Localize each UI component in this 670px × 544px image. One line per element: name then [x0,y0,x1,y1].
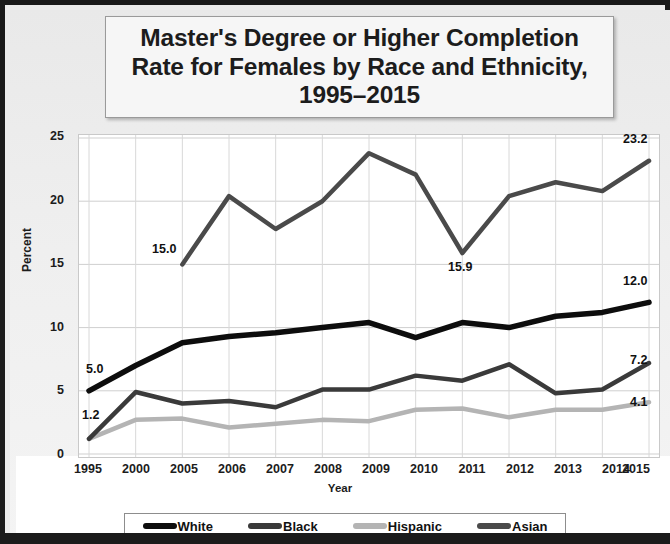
legend-item-hispanic[interactable]: Hispanic [353,519,442,534]
y-tick-label: 0 [30,447,64,461]
legend-item-black[interactable]: Black [248,519,318,534]
data-label: 15.9 [448,260,472,274]
chart-plot-svg [79,135,659,457]
data-label: 5.0 [86,362,103,376]
data-label: 15.0 [152,242,176,256]
page-title: Master's Degree or Higher Completion Rat… [106,24,613,110]
legend-label-black: Black [283,519,318,534]
data-label: 23.2 [623,132,647,146]
plot-area [78,134,660,458]
chart-frame: Master's Degree or Higher Completion Rat… [0,0,670,544]
y-tick-label: 20 [30,193,64,207]
legend-label-asian: Asian [512,519,547,534]
chart-title-box: Master's Degree or Higher Completion Rat… [105,16,614,118]
legend-item-white[interactable]: White [143,519,213,534]
y-tick-label: 10 [30,320,64,334]
data-label: 7.2 [630,353,647,367]
frame-bottom-strip [0,533,670,544]
y-tick-label: 15 [30,256,64,270]
x-tick-label: 2015 [608,462,664,476]
y-tick-label: 25 [30,129,64,143]
legend-swatch-black [248,523,282,529]
data-label: 12.0 [623,274,647,288]
y-tick-label: 5 [30,383,64,397]
chart-canvas: Master's Degree or Higher Completion Rat… [10,10,670,544]
data-label: 1.2 [82,408,99,422]
legend-label-white: White [178,519,213,534]
x-axis-title: Year [10,482,670,494]
legend-item-asian[interactable]: Asian [477,519,547,534]
legend-swatch-white [143,523,177,529]
legend-swatch-asian [477,523,511,529]
legend-label-hispanic: Hispanic [388,519,442,534]
legend-swatch-hispanic [353,523,387,529]
data-label: 4.1 [630,395,647,409]
